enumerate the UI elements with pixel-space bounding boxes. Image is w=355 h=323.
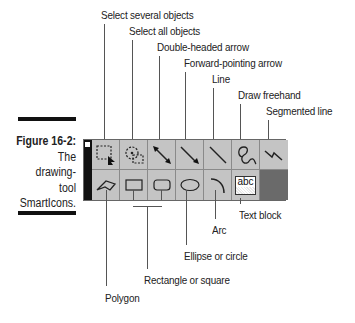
select-several-button[interactable] [92, 140, 120, 170]
segmented-line-icon [262, 143, 286, 167]
leader-line [240, 198, 241, 204]
callout-segmented-line: Segmented line [266, 105, 332, 118]
figure-number: Figure 16-2: [16, 134, 76, 150]
callout-text-block: Text block [239, 209, 281, 222]
leader-line [133, 190, 134, 200]
line-icon [206, 143, 230, 167]
callout-line: Line [212, 73, 230, 86]
leader-line [159, 56, 160, 150]
forward-arrow-icon [178, 143, 202, 167]
caption-line: The [16, 150, 76, 166]
ellipse-button[interactable] [176, 170, 204, 200]
text-block-label: abc [236, 177, 255, 187]
forward-arrow-button[interactable] [176, 140, 204, 170]
leader-line [215, 190, 216, 219]
leader-line [104, 24, 105, 150]
caption-line: drawing- [16, 165, 76, 181]
toolbar-drag-strip[interactable] [84, 140, 92, 200]
caption-rule-top [18, 117, 76, 121]
text-block-icon: abc [235, 176, 256, 195]
leader-line [161, 190, 162, 200]
leader-line [186, 190, 187, 245]
select-several-icon [94, 143, 118, 167]
arc-icon [206, 173, 230, 197]
color-swatch-button[interactable] [260, 170, 288, 200]
callout-select-several: Select several objects [101, 9, 193, 22]
figure-caption: Figure 16-2: The drawing- tool SmartIcon… [16, 134, 76, 212]
callout-ellipse: Ellipse or circle [184, 250, 248, 263]
callout-rectangle: Rectangle or square [144, 274, 230, 287]
text-block-button[interactable]: abc [232, 170, 260, 200]
rectangle-button[interactable] [120, 170, 148, 200]
leader-line [132, 40, 133, 150]
ellipse-icon [178, 173, 202, 197]
callout-freehand: Draw freehand [238, 89, 301, 102]
toolbar-box-icon [85, 142, 90, 147]
rounded-rectangle-button[interactable] [148, 170, 176, 200]
select-all-icon [122, 143, 146, 167]
arc-button[interactable] [204, 170, 232, 200]
callout-select-all: Select all objects [129, 25, 200, 38]
callout-arc: Arc [212, 224, 226, 237]
freehand-button[interactable] [232, 140, 260, 170]
caption-rule-bottom [18, 211, 76, 215]
select-all-button[interactable] [120, 140, 148, 170]
segmented-line-button[interactable] [260, 140, 288, 170]
double-arrow-button[interactable] [148, 140, 176, 170]
callout-double-arrow: Double-headed arrow [157, 41, 249, 54]
leader-line [106, 190, 107, 286]
callout-forward-arrow: Forward-pointing arrow [184, 57, 282, 70]
double-headed-arrow-icon [150, 143, 174, 167]
caption-line: tool [16, 181, 76, 197]
freehand-icon [234, 143, 258, 167]
leader-line [147, 206, 148, 269]
line-button[interactable] [204, 140, 232, 170]
caption-line: SmartIcons. [16, 196, 76, 212]
drawing-toolbar: abc [83, 139, 286, 201]
callout-polygon: Polygon [105, 292, 140, 305]
